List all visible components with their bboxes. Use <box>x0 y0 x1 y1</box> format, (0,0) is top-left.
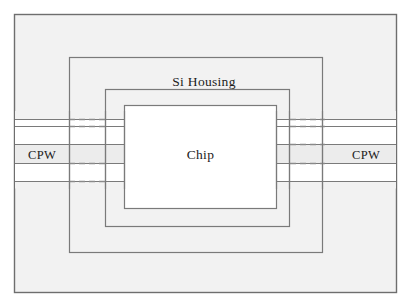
cpw-right-label: CPW <box>340 148 392 163</box>
schematic-diagram: Si Housing Chip CPW CPW <box>0 0 408 307</box>
chip-label: Chip <box>124 147 277 163</box>
cpw-left-label: CPW <box>16 148 68 163</box>
si-housing-label: Si Housing <box>0 74 408 90</box>
